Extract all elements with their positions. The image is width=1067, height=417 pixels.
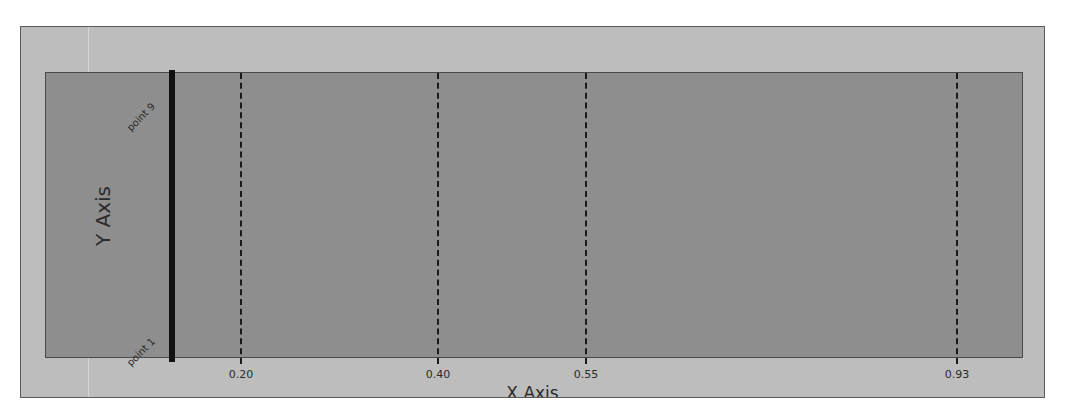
dashed-line-0-20: [240, 73, 242, 364]
y-axis-label: Y Axis: [91, 186, 115, 246]
dashed-line-0-40: [437, 73, 439, 364]
thick-vertical-line: [169, 70, 175, 362]
dashed-line-0-93: [956, 73, 958, 364]
x-tick-label: 0.20: [229, 368, 254, 381]
x-tick-label: 0.55: [574, 368, 599, 381]
dashed-line-0-55: [585, 73, 587, 364]
x-axis-label: X Axis: [506, 383, 558, 398]
x-tick-label: 0.40: [426, 368, 451, 381]
figure-panel: 0.20 0.40 0.55 0.93 point 9 point 1 Y Ax…: [20, 26, 1045, 398]
x-tick-label: 0.93: [945, 368, 970, 381]
plot-area: 0.20 0.40 0.55 0.93: [45, 72, 1023, 358]
